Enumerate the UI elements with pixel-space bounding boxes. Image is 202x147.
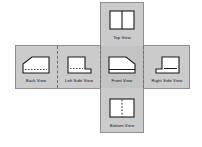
bottom-view-label: Bottom View [100, 123, 144, 128]
view-cell-front: Front View [101, 46, 143, 88]
front-view-label: Front View [101, 78, 143, 83]
right-side-view-label: Right Side View [144, 78, 190, 83]
back-view-drawing [15, 54, 57, 76]
view-cell-top: Top View [100, 2, 144, 45]
right-side-view-outline [156, 57, 179, 73]
top-view-label: Top View [100, 35, 144, 40]
back-view-outline [23, 57, 49, 73]
left-side-view-outline [68, 57, 91, 73]
front-view-svg [101, 54, 143, 76]
bottom-view-svg [100, 96, 144, 121]
back-view-svg [15, 54, 57, 76]
left-side-view-label: Left Side View [58, 78, 100, 83]
top-view-drawing [100, 8, 144, 33]
orthographic-views-diagram: Top View Back View Left Side View [0, 0, 202, 147]
view-cell-left-side: Left Side View [58, 46, 100, 88]
top-view-svg [100, 8, 144, 33]
back-view-label: Back View [15, 78, 57, 83]
view-cell-right-side: Right Side View [144, 46, 190, 88]
view-cell-bottom: Bottom View [100, 90, 144, 133]
bottom-view-drawing [100, 96, 144, 121]
left-side-view-svg [58, 54, 100, 76]
front-view-drawing [101, 54, 143, 76]
right-side-view-svg [144, 54, 190, 76]
left-side-view-drawing [58, 54, 100, 76]
view-cell-back: Back View [15, 46, 57, 88]
front-view-outline [109, 57, 135, 73]
right-side-view-drawing [144, 54, 190, 76]
